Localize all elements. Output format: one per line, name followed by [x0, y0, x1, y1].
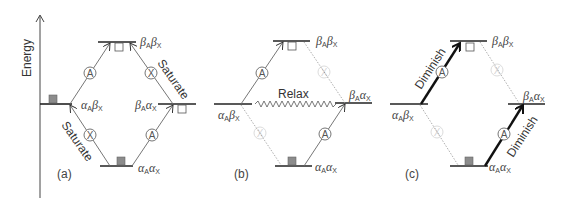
panel-label-a: (a) [57, 167, 72, 181]
circle-A-icon: A [84, 67, 96, 79]
svg-text:X: X [434, 127, 441, 138]
svg-text:X: X [87, 130, 94, 141]
state-label-bb: βAβX [491, 34, 514, 48]
circle-X-faint-icon: X [491, 64, 503, 76]
svg-text:X: X [494, 65, 501, 76]
state-label-ab: αAβX [81, 98, 103, 112]
saturate-annotation: Saturate [155, 57, 193, 102]
circle-A-icon: A [498, 128, 510, 140]
svg-text:A: A [259, 68, 266, 79]
population-open-square [115, 43, 123, 51]
state-label-ab: αAβX [392, 108, 414, 122]
state-label-ab: αAβX [218, 108, 240, 122]
panel-b: X X A A Relax βAβX αAβX βAαX αAαX (b) [214, 34, 372, 181]
state-label-ba: βAαX [522, 89, 545, 103]
energy-axis-label: Energy [20, 39, 34, 77]
state-label-bb: βAβX [139, 35, 162, 49]
population-open-square [466, 43, 474, 51]
state-label-bb: βAβX [315, 34, 338, 48]
relax-zigzag [255, 101, 336, 107]
panel-label-c: (c) [405, 167, 419, 181]
state-label-aa: αAαX [315, 160, 337, 174]
energy-level-diagram: Energy A X X A βAβX αAβX βAαX αAαX Satur… [0, 0, 570, 210]
circle-A-icon: A [319, 128, 331, 140]
population-filled-square [49, 95, 57, 103]
state-label-aa: αAαX [489, 160, 511, 174]
circle-X-faint-icon: X [254, 127, 266, 139]
circle-X-icon: X [84, 129, 96, 141]
svg-text:A: A [501, 129, 508, 140]
svg-text:A: A [439, 67, 446, 78]
population-open-square [288, 42, 296, 50]
population-filled-square [465, 157, 473, 165]
circle-X-faint-icon: X [431, 126, 443, 138]
relax-annotation: Relax [278, 87, 309, 101]
circle-X-icon: X [145, 67, 157, 79]
panel-a: A X X A βAβX αAβX βAαX αAαX Saturate Sat… [40, 35, 196, 181]
state-label-ba: βAαX [348, 88, 371, 102]
panel-label-b: (b) [234, 167, 249, 181]
svg-text:A: A [322, 129, 329, 140]
population-filled-square [117, 157, 125, 165]
energy-axis: Energy [20, 15, 44, 198]
state-label-ba: βAαX [134, 98, 157, 112]
population-open-square [178, 105, 186, 113]
circle-A-icon: A [256, 67, 268, 79]
population-filled-square [288, 157, 296, 165]
svg-text:X: X [148, 68, 155, 79]
svg-text:A: A [87, 68, 94, 79]
svg-text:X: X [257, 128, 264, 139]
svg-text:X: X [321, 67, 328, 78]
panel-c: X X A A Diminish Diminish βAβX αAβX βAαX… [390, 34, 545, 181]
svg-text:A: A [149, 130, 156, 141]
state-label-aa: αAαX [138, 161, 160, 175]
circle-A-icon: A [146, 129, 158, 141]
circle-X-faint-icon: X [318, 66, 330, 78]
